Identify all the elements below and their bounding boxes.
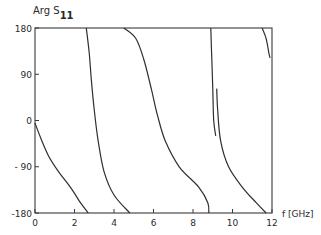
- x-tick-label: 12: [266, 218, 277, 228]
- phase-chart: 024681012180900- 90-180 Arg S11 f [GHz]: [0, 0, 321, 235]
- y-tick-label: 90: [21, 70, 33, 80]
- x-tick-label: 0: [32, 218, 38, 228]
- y-tick-label: -180: [12, 209, 33, 219]
- data-curves: [35, 28, 270, 213]
- curve-branch-4: [211, 28, 216, 136]
- x-axis-label: f [GHz]: [282, 209, 314, 219]
- x-tick-label: 6: [151, 218, 157, 228]
- y-axis-label: Arg S11: [33, 5, 74, 21]
- curve-branch-1: [35, 123, 88, 213]
- axis-ticks: 024681012180900- 90-180: [12, 24, 278, 229]
- x-tick-label: 4: [111, 218, 117, 228]
- y-tick-label: 0: [26, 116, 32, 126]
- y-tick-label: - 90: [14, 162, 32, 172]
- curve-branch-6: [262, 28, 270, 58]
- x-tick-label: 10: [227, 218, 239, 228]
- x-tick-label: 8: [190, 218, 196, 228]
- curve-branch-5: [217, 89, 266, 213]
- curve-branch-3: [124, 28, 209, 213]
- y-tick-label: 180: [15, 24, 32, 34]
- x-tick-label: 2: [72, 218, 78, 228]
- curve-branch-2: [86, 28, 130, 213]
- plot-frame: [35, 28, 272, 213]
- plot-border: [35, 28, 272, 213]
